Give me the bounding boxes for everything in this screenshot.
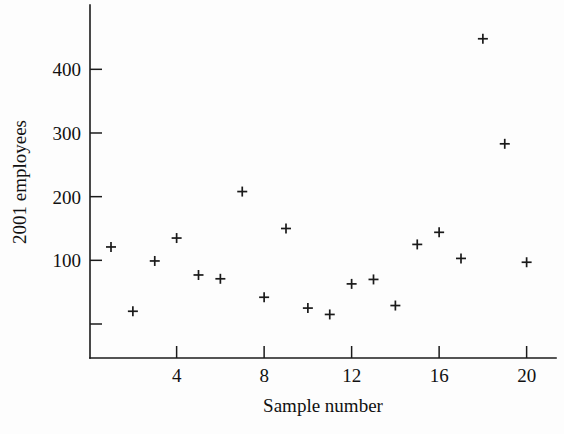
x-axis-title: Sample number: [263, 395, 383, 416]
data-point-marker: [347, 279, 357, 289]
data-point-marker: [150, 256, 160, 266]
data-point-marker: [325, 309, 335, 319]
y-tick-label-400: 400: [53, 59, 82, 80]
x-tick-label-4: 4: [172, 365, 182, 386]
data-point-marker: [128, 306, 138, 316]
x-tick-label-16: 16: [430, 365, 449, 386]
data-point-marker: [259, 292, 269, 302]
y-tick-label-100: 100: [53, 250, 82, 271]
data-point-marker: [456, 253, 466, 263]
data-point-marker: [303, 303, 313, 313]
x-axis-tick-labels: 48121620: [172, 365, 536, 386]
data-point-marker: [478, 34, 488, 44]
data-point-marker: [412, 239, 422, 249]
y-axis-ticks: [90, 69, 102, 324]
data-point-marker: [215, 274, 225, 284]
data-point-marker: [172, 233, 182, 243]
data-point-marker: [106, 242, 116, 252]
scatter-chart-figure: 100200300400 48121620 Sample number 2001…: [0, 0, 564, 434]
data-point-marker: [522, 257, 532, 267]
x-tick-label-20: 20: [517, 365, 536, 386]
x-tick-label-12: 12: [342, 365, 361, 386]
y-axis-title: 2001 employees: [9, 120, 30, 244]
data-point-marker: [281, 223, 291, 233]
plot-canvas: 100200300400 48121620 Sample number 2001…: [0, 0, 564, 434]
data-point-marker: [434, 227, 444, 237]
data-point-marker: [237, 187, 247, 197]
data-point-marker: [194, 270, 204, 280]
data-point-marker: [500, 139, 510, 149]
data-point-marker: [390, 301, 400, 311]
x-axis-ticks: [177, 346, 527, 358]
data-point-marker: [369, 274, 379, 284]
data-point-markers: [106, 34, 532, 320]
y-tick-label-200: 200: [53, 187, 82, 208]
x-tick-label-8: 8: [259, 365, 269, 386]
y-tick-label-300: 300: [53, 123, 82, 144]
y-axis-tick-labels: 100200300400: [53, 59, 82, 271]
axes: [90, 5, 556, 358]
